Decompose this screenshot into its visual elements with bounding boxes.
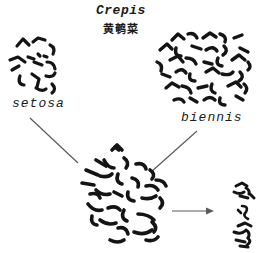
chromosome-diagram-canvas xyxy=(0,0,263,253)
label-setosa: setosa xyxy=(12,96,65,111)
figure-subtitle-chinese: 黄鹌菜 xyxy=(103,20,139,36)
setosa-chromosome-spread xyxy=(10,38,55,93)
condensed-chromosome-cluster xyxy=(234,183,254,247)
crepis-chromosome-figure: Crepis 黄鹌菜 setosa biennis xyxy=(0,0,263,253)
label-biennis: biennis xyxy=(181,110,243,125)
hybrid-chromosome-spread xyxy=(82,145,166,242)
line-setosa-to-hybrid xyxy=(30,118,78,163)
arrow-right-icon xyxy=(172,208,214,215)
biennis-chromosome-spread xyxy=(157,33,250,105)
line-biennis-to-hybrid xyxy=(151,131,197,172)
figure-title: Crepis xyxy=(96,3,146,18)
